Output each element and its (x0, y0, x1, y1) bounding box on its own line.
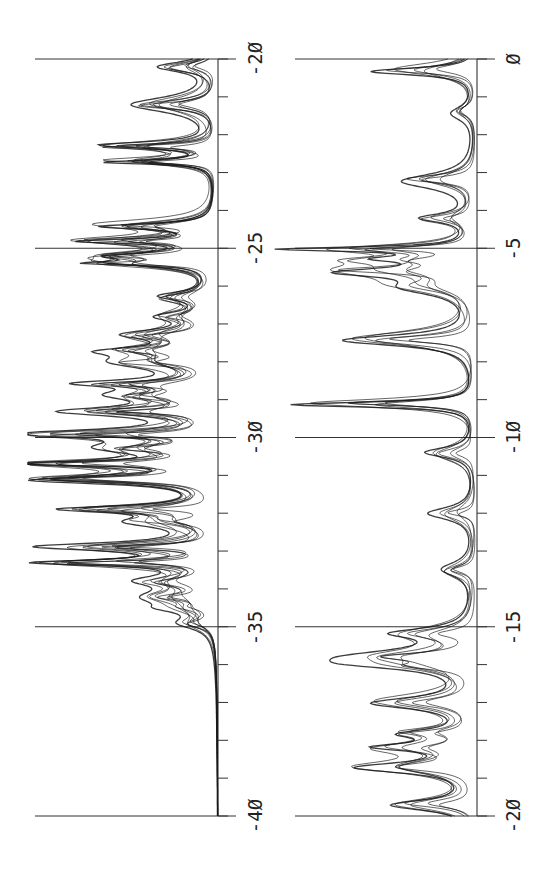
left-axis-labels: -2Ø -25 -3Ø -35 -4Ø (244, 41, 266, 833)
tick-label: -35 (244, 611, 266, 645)
tick-label: -3Ø (244, 420, 266, 455)
right-axis-labels: Ø -5 -1Ø -15 -2Ø (502, 53, 524, 833)
tick-label: Ø (502, 53, 524, 65)
spectra-figure: -2Ø -25 -3Ø -35 -4Ø Ø -5 -1Ø -15 -2Ø (0, 0, 551, 876)
tick-label: -5 (502, 238, 524, 261)
tick-label: -4Ø (244, 798, 266, 833)
left-spectrum-panel (28, 59, 236, 816)
tick-label: -1Ø (502, 420, 524, 455)
tick-label: -15 (502, 611, 524, 645)
tick-label: -25 (244, 232, 266, 266)
right-spectrum-panel (275, 59, 495, 816)
tick-label: -2Ø (244, 41, 266, 76)
tick-label: -2Ø (502, 798, 524, 833)
